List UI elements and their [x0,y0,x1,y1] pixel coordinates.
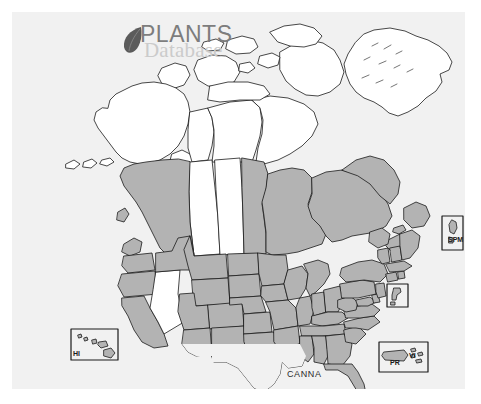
inset-label-pr: PR [390,359,400,366]
region-south-dakota [229,274,261,298]
north-america-map [12,12,465,389]
region-yukon [188,108,214,162]
region-new-jersey [376,283,386,298]
region-indiana [312,292,326,316]
taxon-label: CANNA [287,369,322,379]
region-kansas [244,312,272,334]
region-connecticut [386,272,398,282]
region-oregon [118,271,158,297]
inset-label-spm: SPM [448,236,463,243]
inset-island-small [387,284,408,307]
region-arctic-mainland-north [208,82,270,102]
region-alabama [312,336,328,364]
region-iowa [261,284,288,302]
region-washington [122,253,155,273]
region-saskatchewan [215,158,244,255]
region-pennsylvania [340,280,376,298]
inset-puerto-rico-virgin-islands [379,342,428,372]
inset-saint-pierre-miquelon [442,216,463,250]
inset-label-vi: VI [409,352,416,359]
region-rhode-island [398,271,405,279]
region-north-dakota [228,253,259,276]
plants-distribution-map-image: PLANTS Database CANNA HI PR VI SPM [0,0,481,404]
map-panel [12,12,465,389]
region-colorado [208,302,244,329]
inset-label-hi: HI [73,350,80,357]
region-minnesota [258,253,288,286]
region-wyoming [192,278,230,306]
region-northwest-territories [208,100,262,162]
